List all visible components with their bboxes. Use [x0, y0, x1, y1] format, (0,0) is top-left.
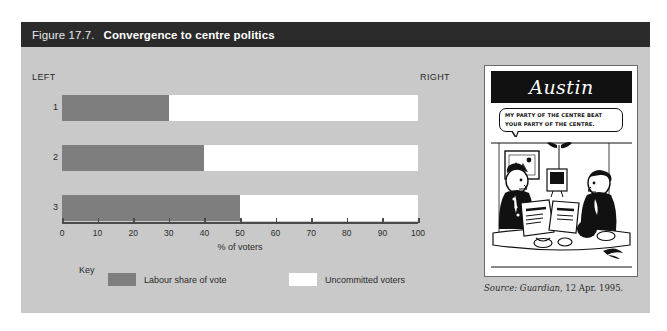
x-axis-tick-label: 70 [306, 228, 315, 238]
speech-bubble-line-1: MY PARTY OF THE CENTRE BEAT [505, 111, 619, 120]
figure-container: Figure 17.7. Convergence to centre polit… [0, 0, 667, 331]
x-axis-tick-label: 80 [342, 228, 351, 238]
bar-segment-labour [62, 145, 204, 171]
bar-segment-labour [62, 95, 169, 121]
x-axis-tick [204, 218, 206, 223]
source-publication: Guardian [520, 283, 560, 293]
cartoon-panel: Austin MY PARTY OF THE CENTRE BEAT YOUR … [484, 65, 638, 277]
cartoonist-signature: Austin [491, 71, 632, 103]
x-axis-tick [382, 218, 384, 223]
legend-item-uncommitted: Uncommitted voters [289, 273, 405, 286]
legend-swatch-labour [108, 273, 136, 286]
x-axis-tick-label: 30 [164, 228, 173, 238]
figure-title: Convergence to centre politics [104, 29, 275, 41]
x-axis-title: % of voters [62, 242, 418, 252]
figure-body: LEFT RIGHT 1 2 3 [21, 47, 650, 313]
legend-item-labour: Labour share of vote [108, 273, 227, 286]
x-axis-tick-label: 60 [271, 228, 280, 238]
x-axis-tick [169, 218, 171, 223]
x-axis-tick-label: 50 [235, 228, 244, 238]
speech-bubble-tail-fill [512, 130, 518, 136]
cartoon-image: Austin MY PARTY OF THE CENTRE BEAT YOUR … [491, 71, 632, 272]
x-axis-tick [62, 218, 64, 223]
x-axis-tick-label: 90 [378, 228, 387, 238]
legend-label: Labour share of vote [144, 275, 227, 285]
x-axis-tick-label: 100 [411, 228, 425, 238]
cartoon-scene [491, 137, 632, 272]
plot-region: 1 2 3 [62, 95, 418, 222]
source-label: Source: [484, 283, 517, 293]
table-row: 2 [62, 145, 418, 171]
x-axis-line [62, 222, 418, 224]
x-axis-tick-label: 40 [200, 228, 209, 238]
x-axis-tick [347, 218, 349, 223]
cartoon-frame: Austin MY PARTY OF THE CENTRE BEAT YOUR … [484, 65, 638, 277]
figure-number: Figure 17.7. [32, 29, 95, 41]
axis-label-right: RIGHT [420, 72, 450, 82]
x-axis-tick [276, 218, 278, 223]
legend: Labour share of vote Uncommitted voters [108, 273, 438, 289]
table-row: 1 [62, 95, 418, 121]
x-axis-tick [133, 218, 135, 223]
x-axis-tick-label: 0 [60, 228, 65, 238]
bar-row-label: 1 [48, 102, 58, 112]
legend-label: Uncommitted voters [325, 275, 405, 285]
bar-row-label: 3 [48, 202, 58, 212]
x-axis-tick [98, 218, 100, 223]
x-axis-tick [240, 218, 242, 223]
axis-label-left: LEFT [32, 72, 56, 82]
figure-header: Figure 17.7. Convergence to centre polit… [21, 22, 650, 47]
x-axis-tick-label: 10 [93, 228, 102, 238]
chart-area: LEFT RIGHT 1 2 3 [21, 47, 481, 313]
speech-bubble-line-2: YOUR PARTY OF THE CENTRE. [505, 120, 619, 129]
source-caption: Source: Guardian, 12 Apr. 1995. [484, 283, 623, 293]
x-axis-tick [418, 218, 420, 223]
x-axis-tick-label: 20 [128, 228, 137, 238]
bar-segment-labour [62, 195, 240, 221]
legend-swatch-uncommitted [289, 273, 317, 286]
bar-row-label: 2 [48, 152, 58, 162]
x-axis-tick [311, 218, 313, 223]
cartoon-drawing-icon [491, 137, 632, 272]
speech-bubble: MY PARTY OF THE CENTRE BEAT YOUR PARTY O… [499, 108, 623, 132]
legend-key-label: Key [79, 265, 95, 275]
source-date: , 12 Apr. 1995. [560, 283, 623, 293]
